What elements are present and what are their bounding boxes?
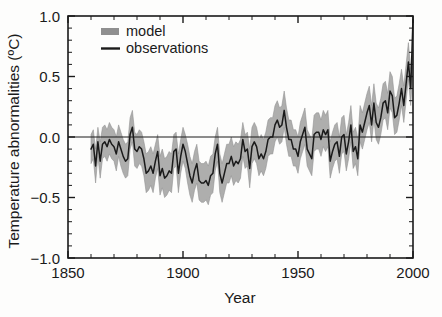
legend-swatch-model [101,28,119,35]
x-tick-label: 1900 [166,264,199,281]
figure-container: 1850190019502000 −1.0−0.50.00.51.0 Year … [0,0,442,317]
x-tick-label: 2000 [396,264,429,281]
legend-label-observations: observations [126,40,208,56]
y-tick-label: 0.5 [39,68,60,85]
y-tick-label: −0.5 [30,189,60,206]
x-axis-title: Year [224,289,255,306]
y-tick-label: −1.0 [30,250,60,267]
temperature-anomaly-chart: 1850190019502000 −1.0−0.50.00.51.0 Year … [0,0,442,317]
y-tick-label: 0.0 [39,129,60,146]
legend-label-model: model [126,23,166,39]
y-axis-title: Temperature abnormalities (ºC) [5,34,22,249]
y-tick-label: 1.0 [39,8,60,25]
x-tick-label: 1950 [281,264,314,281]
x-tick-label: 1850 [51,264,84,281]
